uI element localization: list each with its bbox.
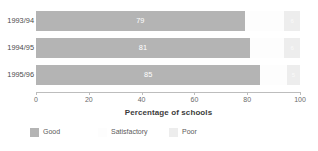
bar-value-poor: 6 — [284, 11, 300, 31]
x-axis-tick — [89, 92, 90, 95]
legend-swatch-icon — [98, 128, 107, 137]
bar-segment-satisfactory[interactable] — [250, 38, 284, 58]
bar-row: 1994/95 81 6 — [0, 38, 318, 58]
bar-row: 1993/94 79 6 — [0, 11, 318, 31]
category-label: 1993/94 — [2, 11, 34, 31]
bar-row: 1995/96 85 5 — [0, 65, 318, 85]
legend-label: Good — [43, 126, 60, 138]
bar-value-good: 79 — [36, 11, 245, 31]
category-label: 1995/96 — [2, 65, 34, 85]
bar-segment-good[interactable]: 85 — [36, 65, 260, 85]
x-axis-tick — [247, 92, 248, 95]
bar-segment-poor[interactable]: 6 — [284, 11, 300, 31]
bar-value-poor: 6 — [284, 38, 300, 58]
x-axis-tick-label: 60 — [179, 96, 209, 103]
x-axis-line — [36, 92, 301, 93]
legend-label: Poor — [182, 126, 197, 138]
bar-value-poor: 5 — [287, 65, 300, 85]
bar-track: 85 5 — [36, 65, 300, 85]
bar-segment-good[interactable]: 79 — [36, 11, 245, 31]
x-axis-tick-label: 80 — [232, 96, 262, 103]
bar-value-satisfactory — [245, 11, 285, 31]
category-label: 1994/95 — [2, 38, 34, 58]
x-axis-tick-label: 40 — [127, 96, 157, 103]
legend-swatch-icon — [169, 128, 178, 137]
bar-segment-good[interactable]: 81 — [36, 38, 250, 58]
bar-segment-satisfactory[interactable] — [260, 65, 286, 85]
bar-value-satisfactory — [260, 65, 286, 85]
bar-track: 81 6 — [36, 38, 300, 58]
bar-segment-satisfactory[interactable] — [245, 11, 285, 31]
bar-segment-poor[interactable]: 5 — [287, 65, 300, 85]
bar-segment-poor[interactable]: 6 — [284, 38, 300, 58]
bar-track: 79 6 — [36, 11, 300, 31]
x-axis-tick-label: 0 — [21, 96, 51, 103]
x-axis-tick-label: 20 — [74, 96, 104, 103]
x-axis-tick — [194, 92, 195, 95]
stacked-bar-chart: 1993/94 79 6 1994/95 81 — [0, 0, 318, 151]
x-axis-tick-label: 100 — [285, 96, 315, 103]
plot-area: 1993/94 79 6 1994/95 81 — [0, 0, 318, 151]
legend-label: Satisfactory — [111, 126, 148, 138]
bar-value-good: 85 — [36, 65, 260, 85]
bar-value-satisfactory — [250, 38, 284, 58]
x-axis-tick — [36, 92, 37, 95]
bar-value-good: 81 — [36, 38, 250, 58]
x-axis-tick — [142, 92, 143, 95]
legend-swatch-icon — [30, 128, 39, 137]
x-axis-tick — [300, 92, 301, 95]
x-axis-title: Percentage of schools — [36, 108, 301, 117]
